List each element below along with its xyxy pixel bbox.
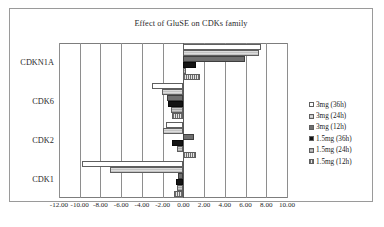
legend-swatch-icon: [309, 102, 314, 107]
x-axis-tick-label: 10.00: [279, 201, 295, 209]
category-label: CDK1: [32, 174, 54, 183]
chart-legend: 3mg (36h)3mg (24h)3mg (12h)1.5mg (36h)1.…: [309, 99, 375, 167]
category-group: CDK1: [59, 159, 287, 198]
legend-label: 3mg (24h): [316, 112, 346, 120]
legend-item: 1.5mg (12h): [309, 156, 375, 167]
bar: [174, 191, 183, 197]
category-group: CDKN1A: [59, 43, 287, 82]
bar: [110, 167, 184, 173]
legend-label: 3mg (36h): [316, 101, 346, 109]
legend-swatch-icon: [309, 136, 314, 141]
x-axis-tick-label: 6.00: [239, 201, 251, 209]
x-axis-tick-label: 0.00: [177, 201, 189, 209]
legend-swatch-icon: [309, 125, 314, 130]
figure-frame: Effect of GluSE on CDKs family -12.00-10…: [9, 8, 373, 202]
category-group: CDK6: [59, 82, 287, 121]
category-group: CDK2: [59, 121, 287, 160]
bar: [183, 134, 193, 140]
legend-swatch-icon: [309, 148, 314, 153]
bar: [183, 152, 195, 158]
gridline: [287, 43, 288, 198]
bar: [183, 74, 200, 80]
legend-label: 3mg (12h): [316, 123, 346, 131]
x-axis-tick-label: -8.00: [93, 201, 108, 209]
legend-label: 1.5mg (12h): [316, 158, 352, 166]
legend-label: 1.5mg (36h): [316, 135, 352, 143]
legend-item: 3mg (12h): [309, 122, 375, 133]
x-axis-tick-label: 8.00: [260, 201, 272, 209]
x-axis-tick-label: 2.00: [198, 201, 210, 209]
legend-label: 1.5mg (24h): [316, 146, 352, 154]
figure-page: Effect of GluSE on CDKs family -12.00-10…: [0, 0, 384, 227]
bar: [163, 128, 184, 134]
legend-item: 1.5mg (36h): [309, 133, 375, 144]
x-axis-tick-label: -10.00: [71, 201, 89, 209]
x-axis-tick-label: -12.00: [50, 201, 68, 209]
legend-swatch-icon: [309, 114, 314, 119]
legend-swatch-icon: [309, 159, 314, 164]
x-axis-tick-label: -4.00: [135, 201, 150, 209]
chart-title: Effect of GluSE on CDKs family: [10, 19, 372, 28]
bar: [172, 113, 183, 119]
category-label: CDK2: [32, 135, 54, 144]
category-label: CDK6: [32, 97, 54, 106]
legend-item: 1.5mg (24h): [309, 145, 375, 156]
x-axis-tick-label: 4.00: [219, 201, 231, 209]
category-label: CDKN1A: [20, 58, 54, 67]
legend-item: 3mg (24h): [309, 110, 375, 121]
x-axis-tick-label: -6.00: [114, 201, 129, 209]
x-axis-tick-label: -2.00: [155, 201, 170, 209]
legend-item: 3mg (36h): [309, 99, 375, 110]
plot-area: -12.00-10.00-8.00-6.00-4.00-2.000.002.00…: [59, 43, 287, 198]
